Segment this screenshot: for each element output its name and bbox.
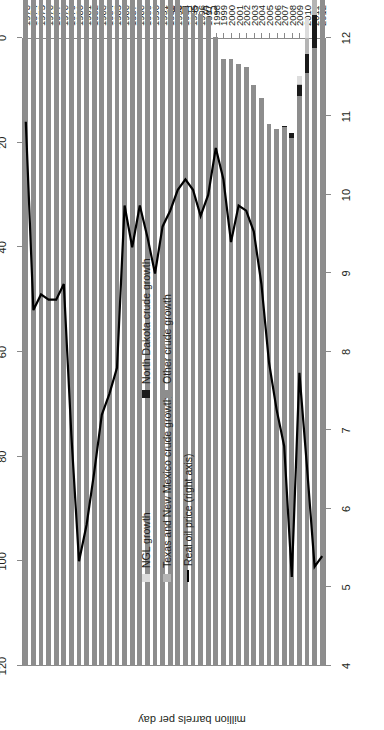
chart-page: million barrels per day US dollars 45678…	[0, 0, 384, 730]
right-axis-tick-label: 80	[0, 451, 8, 463]
legend-item[interactable]: Real oil price (right axis)	[182, 396, 194, 582]
plot-area: 456789101112 020406080100120 19731974197…	[22, 38, 326, 666]
left-axis-tick-label: 7	[340, 427, 352, 433]
legend-color-swatch	[142, 390, 150, 398]
bar-segment	[305, 18, 310, 38]
bar-segment	[312, 0, 317, 15]
right-axis-tick-label: 120	[0, 657, 8, 675]
legend-item[interactable]: NGL growth	[140, 396, 152, 582]
legend-item-label: Texas and New Mexico crude growth	[161, 396, 173, 568]
left-axis-tick-label: 5	[340, 584, 352, 590]
legend-item-label: NGL growth	[140, 512, 152, 568]
left-axis-tick	[326, 37, 331, 38]
left-axis-title: million barrels per day	[138, 714, 246, 726]
left-axis-tick	[326, 665, 331, 666]
right-axis-tick-label: 0	[0, 35, 8, 41]
left-axis-tick-label: 8	[340, 349, 352, 355]
right-axis-tick-label: 100	[0, 552, 8, 570]
legend-item[interactable]: Texas and New Mexico crude growth	[161, 396, 173, 582]
legend-color-swatch	[163, 574, 171, 582]
legend-color-swatch	[163, 390, 171, 398]
left-axis-tick	[326, 508, 331, 509]
left-axis-tick-label: 12	[340, 32, 352, 44]
right-axis-tick-label: 20	[0, 137, 8, 149]
left-axis-tick-label: 6	[340, 506, 352, 512]
legend-item[interactable]: Other crude growth	[161, 259, 173, 398]
right-axis-tick-label: 40	[0, 241, 8, 253]
left-axis-tick-label: 11	[340, 111, 352, 122]
legend-item-label: Real oil price (right axis)	[182, 453, 194, 566]
legend-line-swatch	[187, 570, 190, 582]
left-axis-tick	[326, 351, 331, 352]
legend-item-label: Other crude growth	[161, 294, 173, 384]
left-axis-tick	[326, 273, 331, 274]
legend-column-left: NGL growthTexas and New Mexico crude gro…	[140, 396, 203, 582]
left-axis-tick-label: 4	[340, 663, 352, 669]
legend-item-label: North Dakota crude growth	[140, 259, 152, 384]
legend-item[interactable]: North Dakota crude growth	[140, 259, 152, 398]
chart-stage: million barrels per day US dollars 45678…	[0, 0, 384, 730]
left-axis-tick	[326, 587, 331, 588]
left-axis-tick	[326, 194, 331, 195]
legend-column-right: North Dakota crude growthOther crude gro…	[140, 259, 182, 398]
left-axis-tick	[326, 116, 331, 117]
left-axis-tick	[326, 430, 331, 431]
left-axis-tick-label: 10	[340, 189, 352, 201]
legend-color-swatch	[142, 574, 150, 582]
left-axis-tick-label: 9	[340, 270, 352, 276]
right-axis-tick-label: 60	[0, 346, 8, 358]
